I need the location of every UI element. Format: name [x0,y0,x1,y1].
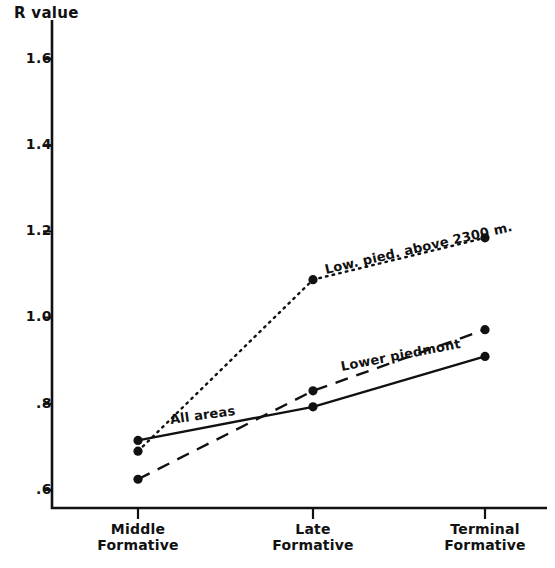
series-layer [133,233,489,484]
data-point-lower-piedmont-2 [480,325,489,334]
y-tick-marks [43,59,52,490]
plot-area [0,0,555,568]
data-point-lower-piedmont-1 [308,386,317,395]
axis-spine [52,20,547,508]
data-point-lower-piedmont-0 [133,475,142,484]
data-point-all-areas-0 [133,436,142,445]
data-point-low-pied-above-2300-m-1 [308,275,317,284]
data-point-low-pied-above-2300-m-0 [133,447,142,456]
chart-figure: R value 1.6 1.4 1.2 1.0 .8 .6 Middle For… [0,0,555,568]
data-point-low-pied-above-2300-m-2 [480,233,489,242]
x-tick-marks [138,508,485,519]
data-point-all-areas-2 [480,352,489,361]
data-point-all-areas-1 [308,402,317,411]
series-line-low-pied-above-2300-m [138,238,485,451]
series-line-all-areas [138,356,485,440]
